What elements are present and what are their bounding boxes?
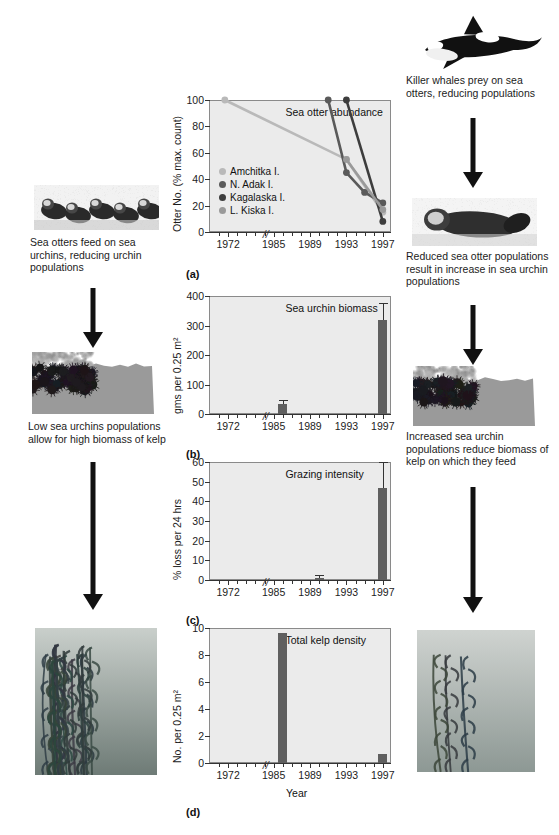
x-tick-mark-d	[228, 763, 229, 768]
x-minor-tick-d	[292, 763, 293, 767]
y-tick-label-d: 10	[177, 622, 204, 634]
x-tick-mark-a	[274, 232, 275, 237]
x-minor-tick-c	[365, 580, 366, 584]
x-minor-tick-d	[356, 763, 357, 767]
x-tick-mark-c	[310, 580, 311, 585]
panel-letter-a: (a)	[186, 268, 199, 280]
error-bar-b-1	[383, 303, 384, 319]
x-tick-mark-d	[383, 763, 384, 768]
y-tick-mark-a	[205, 126, 210, 127]
bar-c-1	[378, 488, 387, 580]
x-minor-tick-b	[365, 414, 366, 418]
arrow-left-1	[80, 288, 106, 350]
x-tick-label-a: 1989	[290, 238, 330, 250]
x-minor-tick-b	[328, 414, 329, 418]
bar-d-0	[278, 633, 287, 763]
error-bar-c-1	[383, 462, 384, 488]
y-tick-mark-c	[205, 501, 210, 502]
y-tick-label-b: 400	[177, 290, 204, 302]
x-minor-tick-d	[319, 763, 320, 767]
x-axis-break-b: //	[263, 410, 269, 422]
bar-d-1	[378, 754, 387, 763]
error-cap-b-0	[279, 400, 288, 401]
x-axis-label-d: Year	[286, 787, 307, 799]
y-tick-mark-c	[205, 560, 210, 561]
x-minor-tick-c	[283, 580, 284, 584]
arrow-left-2	[80, 462, 106, 612]
x-minor-tick-a	[337, 232, 338, 236]
y-tick-mark-d	[205, 736, 210, 737]
x-tick-label-d: 1993	[326, 769, 366, 781]
x-minor-tick-a	[237, 232, 238, 236]
x-minor-tick-d	[337, 763, 338, 767]
x-minor-tick-a	[328, 232, 329, 236]
chart-title-d: Total kelp density	[285, 634, 366, 646]
x-minor-tick-d	[328, 763, 329, 767]
x-minor-tick-d	[255, 763, 256, 767]
dense-sea-urchins-photo	[413, 366, 535, 426]
x-minor-tick-d	[374, 763, 375, 767]
y-tick-label-c: 20	[177, 535, 204, 547]
x-minor-tick-b	[283, 414, 284, 418]
x-tick-label-d: 1972	[208, 769, 248, 781]
x-tick-label-b: 1985	[254, 420, 294, 432]
x-axis-break-d: //	[263, 759, 269, 771]
y-tick-label-a: 20	[177, 200, 204, 212]
y-tick-label-d: 2	[177, 730, 204, 742]
x-tick-label-b: 1989	[290, 420, 330, 432]
dense-kelp-forest-photo	[35, 628, 157, 775]
x-tick-label-d: 1997	[363, 769, 403, 781]
y-tick-label-d: 6	[177, 676, 204, 688]
y-tick-label-c: 40	[177, 495, 204, 507]
x-tick-mark-d	[346, 763, 347, 768]
x-minor-tick-b	[301, 414, 302, 418]
error-cap-c-0	[315, 575, 324, 576]
x-minor-tick-c	[374, 580, 375, 584]
chart-sea-otter-abundance: Otter No. (% max. count)0204060801001972…	[165, 96, 395, 261]
x-minor-tick-b	[219, 414, 220, 418]
x-minor-tick-c	[237, 580, 238, 584]
legend-row-0: Amchitka I.	[219, 162, 285, 174]
x-tick-mark-b	[228, 414, 229, 419]
x-minor-tick-a	[283, 232, 284, 236]
left-caption-1: Sea otters feed on sea urchins, reducing…	[30, 236, 165, 274]
y-tick-label-b: 300	[177, 320, 204, 332]
y-tick-label-a: 40	[177, 173, 204, 185]
x-tick-mark-d	[274, 763, 275, 768]
x-tick-label-c: 1989	[290, 586, 330, 598]
x-tick-label-a: 1985	[254, 238, 294, 250]
x-tick-label-a: 1972	[208, 238, 248, 250]
y-axis-label-d: No. per 0.25 m²	[171, 690, 183, 763]
x-tick-mark-a	[346, 232, 347, 237]
sparse-kelp-photo	[417, 630, 535, 772]
y-tick-label-c: 50	[177, 476, 204, 488]
x-minor-tick-c	[301, 580, 302, 584]
x-tick-label-d: 1989	[290, 769, 330, 781]
x-tick-label-d: 1985	[254, 769, 294, 781]
trophic-cascade-figure: Sea otters feed on sea urchins, reducing…	[0, 0, 559, 835]
error-cap-b-1	[379, 303, 388, 304]
x-minor-tick-c	[246, 580, 247, 584]
y-tick-mark-a	[205, 206, 210, 207]
chart-title-b: Sea urchin biomass	[285, 302, 377, 314]
y-tick-label-c: 60	[177, 456, 204, 468]
y-tick-mark-c	[205, 521, 210, 522]
x-minor-tick-b	[319, 414, 320, 418]
bar-b-0	[278, 404, 287, 414]
y-tick-mark-a	[205, 179, 210, 180]
x-tick-label-b: 1972	[208, 420, 248, 432]
y-tick-label-d: 8	[177, 649, 204, 661]
x-minor-tick-d	[301, 763, 302, 767]
x-tick-label-c: 1993	[326, 586, 366, 598]
x-tick-label-c: 1997	[363, 586, 403, 598]
x-minor-tick-d	[283, 763, 284, 767]
chart-title-c: Grazing intensity	[285, 468, 363, 480]
legend-label-3: L. Kiska I.	[230, 205, 274, 216]
x-tick-mark-c	[383, 580, 384, 585]
x-minor-tick-b	[356, 414, 357, 418]
y-tick-label-c: 30	[177, 515, 204, 527]
y-tick-mark-d	[205, 682, 210, 683]
right-caption-3: Increased sea urchin populations reduce …	[406, 430, 554, 468]
plot-area-d	[209, 628, 391, 763]
y-tick-mark-a	[205, 153, 210, 154]
